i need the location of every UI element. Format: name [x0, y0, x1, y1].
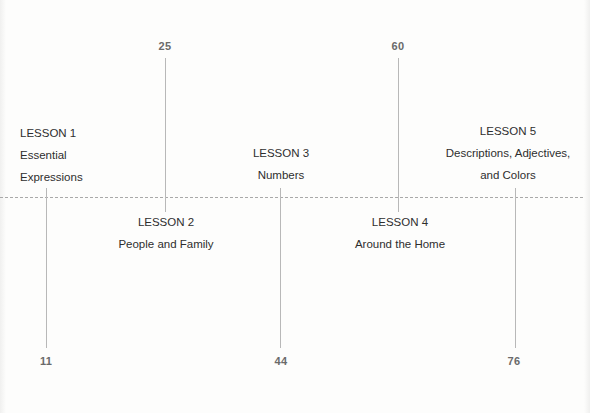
lesson-5-label: LESSON 5 Descriptions, Adjectives, and C…: [446, 120, 571, 186]
lesson-1-page-number: 11: [26, 355, 66, 367]
lesson-4-label: LESSON 4 Around the Home: [355, 211, 445, 255]
lesson-2-page-number: 25: [145, 40, 185, 52]
lesson-1-label: LESSON 1 Essential Expressions: [20, 122, 83, 188]
lesson-4-page-number: 60: [378, 40, 418, 52]
timeline-axis: [0, 197, 583, 198]
lesson-2-title-line-1: People and Family: [118, 233, 213, 255]
lesson-3-label: LESSON 3 Numbers: [253, 142, 309, 186]
lesson-3-connector: [280, 188, 281, 348]
lesson-1-title-line-1: Essential: [20, 144, 83, 166]
lesson-3-heading: LESSON 3: [253, 142, 309, 164]
lesson-5-heading: LESSON 5: [446, 120, 571, 142]
page-edge-right: [584, 0, 590, 413]
lesson-5-title-line-1: Descriptions, Adjectives,: [446, 142, 571, 164]
lesson-5-title-line-2: and Colors: [446, 164, 571, 186]
lesson-4-title-line-1: Around the Home: [355, 233, 445, 255]
lesson-2-heading: LESSON 2: [118, 211, 213, 233]
page-edge-left: [0, 0, 6, 413]
lesson-4-connector: [398, 58, 399, 212]
lesson-1-heading: LESSON 1: [20, 122, 83, 144]
lesson-4-heading: LESSON 4: [355, 211, 445, 233]
lesson-3-page-number: 44: [261, 355, 301, 367]
lesson-5-connector: [515, 188, 516, 348]
lesson-3-title-line-1: Numbers: [253, 164, 309, 186]
lesson-1-connector: [46, 188, 47, 348]
lesson-5-page-number: 76: [494, 355, 534, 367]
lesson-2-connector: [165, 58, 166, 212]
lesson-2-label: LESSON 2 People and Family: [118, 211, 213, 255]
lesson-1-title-line-2: Expressions: [20, 166, 83, 188]
